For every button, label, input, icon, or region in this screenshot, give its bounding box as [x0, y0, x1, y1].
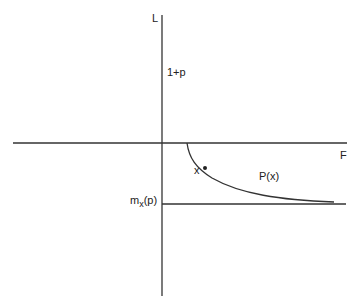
- mx-p-base: m: [130, 194, 139, 206]
- one-plus-p-label: 1+p: [167, 66, 186, 78]
- diagram: L F 1+p P(x) x mx(p): [0, 0, 358, 308]
- point-x-label: x: [194, 164, 200, 176]
- mx-p-arg: (p): [144, 194, 157, 206]
- mx-p-label: mx(p): [130, 194, 157, 209]
- p-x-label: P(x): [259, 170, 279, 182]
- f-axis-label: F: [340, 149, 347, 161]
- point-x-marker: [203, 166, 207, 170]
- l-axis-label: L: [152, 12, 158, 24]
